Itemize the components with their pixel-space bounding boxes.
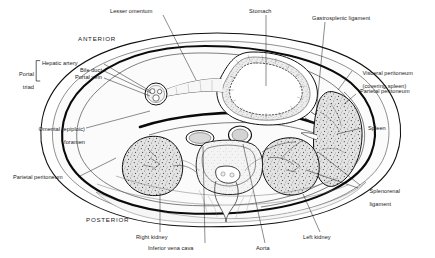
label-aorta: Aorta	[256, 245, 270, 252]
portal-triad-bracket	[35, 60, 41, 82]
label-bile-duct: Bile duct	[42, 67, 102, 74]
portal-vein-lumen	[153, 95, 159, 101]
left-kidney	[262, 138, 319, 195]
splenorenal-line1: Splenorenal	[369, 188, 400, 194]
label-gastrosplenic-ligament: Gastrosplenic ligament	[312, 15, 370, 22]
label-stomach: Stomach	[249, 8, 272, 15]
omental-foramen-line2: foramen	[64, 139, 85, 145]
label-splenorenal-ligament: Splenorenal ligament	[363, 181, 400, 214]
portal-triad-line2: triad	[23, 84, 34, 90]
label-left-kidney: Left kidney	[303, 234, 331, 241]
label-lesser-omentum: Lesser omentum	[110, 8, 153, 15]
label-omental-foramen: Omental (epiploic) foramen	[14, 119, 85, 152]
label-right-kidney: Right kidney	[136, 234, 168, 241]
portal-triad-structure	[145, 83, 167, 105]
orientation-posterior: POSTERIOR	[86, 216, 129, 223]
portal-triad-group-label: Portal triad	[8, 64, 34, 97]
label-portal-vein: Portal vein	[42, 74, 102, 81]
label-spleen: Spleen	[368, 125, 386, 132]
visceral-peritoneum-line1: Visceral peritoneum	[362, 70, 412, 76]
bile-duct-lumen	[157, 89, 161, 93]
label-inferior-vena-cava: Inferior vena cava	[148, 245, 194, 252]
label-parietal-peritoneum-left: Parietal peritoneum	[13, 174, 63, 181]
abdominal-cross-section-figure: ANTERIOR POSTERIOR Lesser omentum Stomac…	[0, 0, 435, 258]
label-hepatic-artery: Hepatic artery	[42, 60, 78, 67]
orientation-anterior: ANTERIOR	[78, 35, 116, 42]
label-parietal-peritoneum-right: Parietal peritoneum	[360, 88, 410, 95]
omental-foramen-line1: Omental (epiploic)	[39, 126, 85, 132]
portal-triad-line1: Portal	[19, 71, 34, 77]
splenorenal-line2: ligament	[369, 201, 391, 207]
